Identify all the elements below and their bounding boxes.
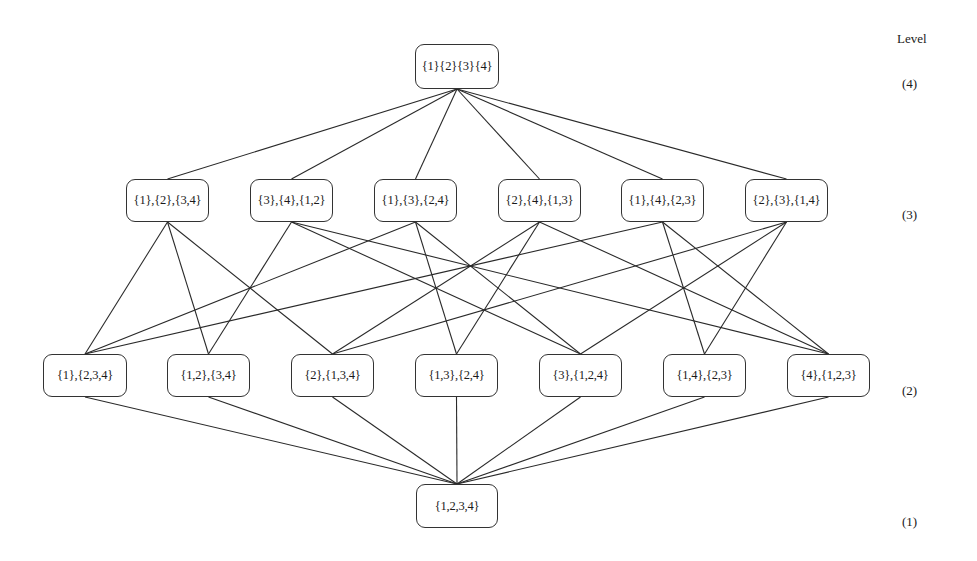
partition-node-level-2: {1},{2,3,4} <box>43 354 127 397</box>
partition-node-level-1: {1,2,3,4} <box>416 484 498 528</box>
partition-node-level-2: {1,3},{2,4} <box>415 354 498 397</box>
partition-node-level-3: {2},{4},{1,3} <box>498 179 581 222</box>
level-label: (3) <box>902 207 917 223</box>
partition-node-level-3: {1},{2},{3,4} <box>126 179 209 222</box>
edge-n4-a <box>168 89 458 179</box>
edge-n4-d <box>457 89 540 179</box>
level-header: Level <box>897 31 927 47</box>
partition-node-level-3: {1},{3},{2,4} <box>374 179 457 222</box>
partition-node-level-2: {2},{1,3,4} <box>291 354 374 397</box>
edge-n4-f <box>457 89 787 179</box>
edge-f-r <box>333 222 787 354</box>
partition-node-level-4: {1}{2}{3}{4} <box>415 44 499 89</box>
partition-node-level-3: {2},{3},{1,4} <box>745 179 828 222</box>
edge-d-s <box>457 222 540 354</box>
edge-n4-b <box>292 89 458 179</box>
partition-node-level-2: {3},{1,2,4} <box>539 354 622 397</box>
edge-p-n1 <box>85 397 457 484</box>
edge-t-n1 <box>457 397 581 484</box>
edge-c-p <box>85 222 416 354</box>
edge-n4-c <box>416 89 458 179</box>
partition-node-level-2: {4},{1,2,3} <box>787 354 870 397</box>
edge-d-r <box>333 222 540 354</box>
edge-q-n1 <box>209 397 458 484</box>
partition-node-level-2: {1,2},{3,4} <box>167 354 250 397</box>
edge-n4-e <box>457 89 663 179</box>
partition-node-level-2: {1,4},{2,3} <box>663 354 746 397</box>
edge-r-n1 <box>333 397 458 484</box>
edge-v-n1 <box>457 397 829 484</box>
edge-s-n1 <box>457 397 458 484</box>
edge-u-n1 <box>457 397 705 484</box>
edge-f-t <box>581 222 787 354</box>
level-label: (1) <box>902 514 917 530</box>
partition-node-level-3: {3},{4},{1,2} <box>250 179 333 222</box>
edge-a-p <box>85 222 168 354</box>
level-label: (2) <box>902 383 917 399</box>
partition-node-level-3: {1},{4},{2,3} <box>621 179 704 222</box>
level-label: (4) <box>902 76 917 92</box>
